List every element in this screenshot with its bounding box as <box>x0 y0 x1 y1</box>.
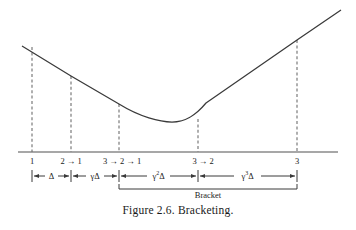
dim-arrowhead-1-right <box>64 174 69 178</box>
dim-arrowhead-2-right <box>112 174 117 178</box>
figure-caption: Figure 2.6. Bracketing. <box>123 205 234 217</box>
tick-label-3: 3 → 2 → 1 <box>103 157 141 166</box>
dimension-label-gamma2-delta: γ2Δ <box>152 172 164 181</box>
dimension-label-delta-text: Δ <box>49 171 54 181</box>
dimension-label-delta: Δ <box>49 172 54 181</box>
dim-arrowhead-2-left <box>73 174 78 178</box>
dimension-label-gamma2-delta-symbol: Δ <box>159 171 164 181</box>
tick-label-1: 1 <box>30 157 34 166</box>
objective-function-curve <box>22 10 341 122</box>
dimension-label-gamma3-delta: γ3Δ <box>241 172 253 181</box>
dim-arrowhead-1-left <box>34 174 39 178</box>
tick-label-4: 3 → 2 <box>192 157 213 166</box>
bracket-label: Bracket <box>195 191 221 200</box>
dimension-label-gamma3-delta-symbol: Δ <box>248 171 253 181</box>
tick-label-5: 3 <box>295 157 299 166</box>
dim-arrowhead-4-right <box>290 174 295 178</box>
dimension-label-gamma-delta-text: γΔ <box>90 171 99 181</box>
dim-arrowhead-3-right <box>191 174 196 178</box>
dim-arrowhead-3-left <box>121 174 126 178</box>
bracket-indicator <box>119 184 297 189</box>
tick-label-2: 2 → 1 <box>60 157 81 166</box>
plot-area <box>0 0 356 230</box>
dimension-label-gamma-delta: γΔ <box>90 172 99 181</box>
dim-arrowhead-4-left <box>200 174 205 178</box>
figure-bracketing: 1 2 → 1 3 → 2 → 1 3 → 2 3 Δ γΔ γ2Δ γ3Δ B… <box>0 0 356 230</box>
